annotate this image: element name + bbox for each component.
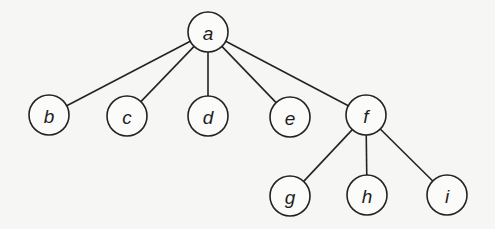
- edge-a-c: [141, 46, 194, 101]
- node-f: f: [346, 95, 386, 135]
- node-a: a: [188, 12, 228, 52]
- node-d: d: [188, 96, 228, 136]
- node-c: c: [107, 96, 147, 136]
- node-label: b: [44, 106, 55, 127]
- tree-diagram: abcdefghi: [0, 0, 495, 229]
- edge-f-g: [304, 130, 353, 182]
- node-label: h: [362, 186, 373, 207]
- node-label: d: [203, 107, 215, 128]
- edge-f-h: [366, 135, 367, 175]
- node-label: a: [203, 23, 214, 44]
- node-e: e: [270, 97, 310, 137]
- node-i: i: [427, 175, 467, 215]
- tree-nodes: abcdefghi: [29, 12, 467, 216]
- node-label: g: [285, 187, 296, 208]
- edge-a-e: [222, 46, 276, 102]
- edge-a-f: [226, 41, 349, 105]
- node-b: b: [29, 95, 69, 135]
- edge-f-i: [380, 129, 433, 181]
- node-label: e: [285, 108, 296, 129]
- node-h: h: [347, 175, 387, 215]
- node-g: g: [270, 176, 310, 216]
- node-label: c: [122, 107, 132, 128]
